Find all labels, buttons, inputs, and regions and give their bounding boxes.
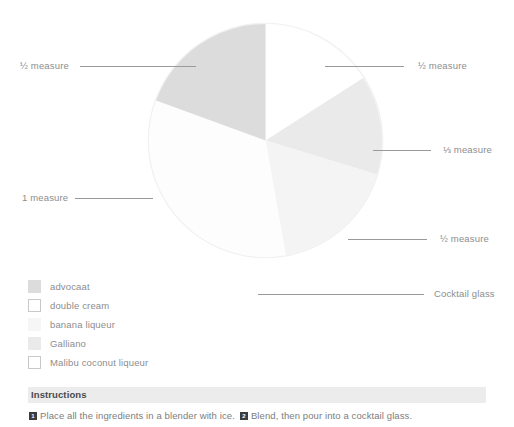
- callout-leader-cocktail-glass: [258, 294, 424, 295]
- callout-label-mid-right: ⅓ measure: [443, 144, 492, 155]
- callout-label-top-right: ½ measure: [418, 60, 467, 71]
- step-1-text: Place all the ingredients in a blender w…: [40, 410, 235, 421]
- step-2-number: 2: [240, 412, 248, 420]
- legend-swatch-banana-liqueur: [28, 318, 41, 331]
- callout-leader-mid-right: [373, 150, 431, 151]
- callout-leader-top-right: [325, 66, 404, 67]
- step-1-number: 1: [29, 412, 37, 420]
- legend-item-malibu-coconut-liqueur: Malibu coconut liqueur: [28, 353, 248, 372]
- callout-leader-left: [75, 198, 153, 199]
- instructions-steps: 1Place all the ingredients in a blender …: [29, 409, 489, 422]
- legend-label-malibu-coconut-liqueur: Malibu coconut liqueur: [50, 357, 148, 368]
- recipe-infographic: ½ measure 1 measure ½ measure ⅓ measure …: [0, 0, 514, 427]
- legend-item-double-cream: double cream: [28, 296, 248, 315]
- callout-label-left: 1 measure: [22, 192, 68, 203]
- legend-label-galliano: Galliano: [50, 338, 86, 349]
- legend-item-galliano: Galliano: [28, 334, 248, 353]
- callout-label-cocktail-glass: Cocktail glass: [434, 288, 495, 299]
- step-2-text: Blend, then pour into a cocktail glass.: [251, 410, 412, 421]
- callout-leader-low-right: [348, 239, 427, 240]
- legend-label-banana-liqueur: banana liqueur: [50, 319, 115, 330]
- legend-swatch-galliano: [28, 337, 41, 350]
- instructions-header-bar: [28, 387, 486, 403]
- pie-chart: [147, 22, 384, 259]
- instructions-heading: Instructions: [31, 388, 87, 402]
- legend-label-advocaat: advocaat: [50, 281, 90, 292]
- legend-swatch-advocaat: [28, 280, 41, 293]
- callout-leader-top-left: [80, 66, 196, 67]
- legend: advocaat double cream banana liqueur Gal…: [28, 277, 248, 372]
- callout-label-top-left: ½ measure: [20, 60, 69, 71]
- legend-item-banana-liqueur: banana liqueur: [28, 315, 248, 334]
- pie-chart-svg: [147, 22, 384, 259]
- callout-label-low-right: ½ measure: [440, 233, 489, 244]
- legend-item-advocaat: advocaat: [28, 277, 248, 296]
- legend-swatch-double-cream: [28, 299, 41, 312]
- legend-swatch-malibu-coconut-liqueur: [28, 356, 41, 369]
- legend-label-double-cream: double cream: [50, 300, 109, 311]
